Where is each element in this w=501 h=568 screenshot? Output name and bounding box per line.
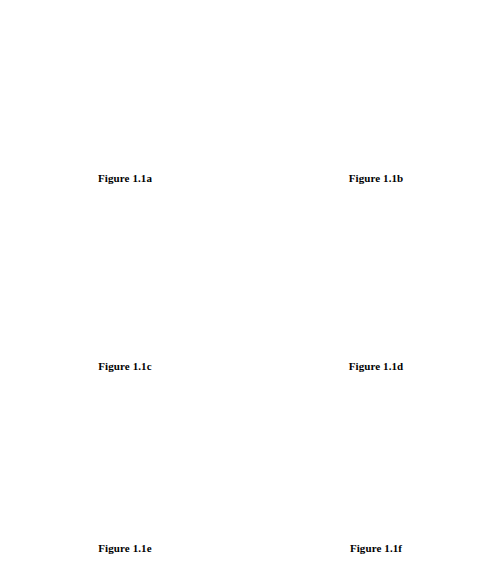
figure-caption-c: Figure 1.1c [0, 360, 250, 372]
figure-caption-f: Figure 1.1f [251, 542, 501, 554]
plot-figure-1-1-f [251, 380, 501, 540]
figure-cell-a: Figure 1.1a [0, 10, 250, 184]
figure-caption-d: Figure 1.1d [251, 360, 501, 372]
plot-figure-1-1-d [251, 198, 501, 358]
figure-caption-a: Figure 1.1a [0, 172, 250, 184]
figure-caption-e: Figure 1.1e [0, 542, 250, 554]
figure-cell-b: Figure 1.1b [251, 10, 501, 184]
plot-figure-1-1-c [0, 198, 250, 358]
figure-cell-d: Figure 1.1d [251, 198, 501, 372]
plot-figure-1-1-e [0, 380, 250, 540]
plot-figure-1-1-b [251, 10, 501, 170]
figure-cell-e: Figure 1.1e [0, 380, 250, 554]
plot-figure-1-1-a [0, 10, 250, 170]
figure-sheet: Figure 1.1a Figure 1.1b Figure 1.1c Figu… [0, 0, 501, 568]
figure-caption-b: Figure 1.1b [251, 172, 501, 184]
figure-cell-c: Figure 1.1c [0, 198, 250, 372]
figure-cell-f: Figure 1.1f [251, 380, 501, 554]
